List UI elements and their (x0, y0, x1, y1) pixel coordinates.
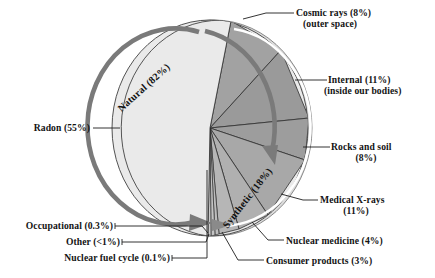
callout-internal: Internal (11%) (inside our bodies) (328, 74, 401, 97)
callout-cosmic-rays-line2: (outer space) (303, 18, 357, 29)
callout-other-line1: Other (<1%) (40, 236, 120, 247)
callout-occupational: Occupational (0.3%) (5, 220, 113, 231)
callout-radon: Radon (55%) (10, 122, 90, 133)
callout-rocks-and-soil-line1: Rocks and soil (331, 141, 401, 152)
radiation-sources-pie-figure: Natural (82%) Synthetic (18%) (0, 0, 435, 278)
callout-internal-line2: (inside our bodies) (324, 85, 401, 96)
callout-nuclear-fuel-cycle-line1: Nuclear fuel cycle (0.1%) (24, 252, 170, 263)
callout-internal-line1: Internal (11%) (328, 74, 401, 85)
callout-rocks-and-soil: Rocks and soil (8%) (331, 141, 401, 164)
callout-nuclear-medicine: Nuclear medicine (4%) (286, 235, 383, 246)
callout-medical-xrays-line2: (11%) (320, 205, 392, 216)
callout-rocks-and-soil-line2: (8%) (331, 152, 401, 163)
callout-radon-line1: Radon (55%) (10, 122, 90, 133)
leader-consumer-products (222, 232, 264, 260)
callout-nuclear-fuel-cycle: Nuclear fuel cycle (0.1%) (24, 252, 170, 263)
callout-medical-xrays-line1: Medical X-rays (320, 194, 392, 205)
callout-occupational-line1: Occupational (0.3%) (5, 220, 113, 231)
callout-cosmic-rays-line1: Cosmic rays (8%) (296, 7, 371, 18)
callout-nuclear-medicine-line1: Nuclear medicine (4%) (286, 235, 383, 246)
callout-medical-xrays: Medical X-rays (11%) (320, 194, 392, 217)
callout-consumer-products-line1: Consumer products (3%) (266, 255, 372, 266)
callout-other: Other (<1%) (40, 236, 120, 247)
leader-cosmic-rays (243, 13, 294, 19)
callout-consumer-products: Consumer products (3%) (266, 255, 372, 266)
